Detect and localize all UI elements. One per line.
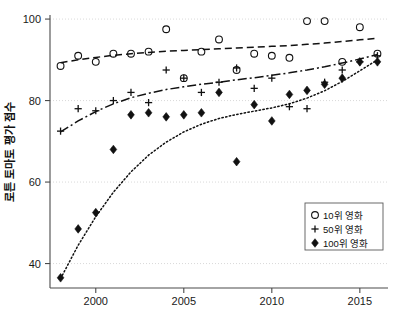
series-open-circle <box>57 18 381 82</box>
data-point-diamond <box>321 80 328 89</box>
data-point-circle <box>251 50 258 57</box>
x-tick-label: 2015 <box>348 295 372 307</box>
data-point-diamond <box>216 88 223 97</box>
data-point-diamond <box>286 90 293 99</box>
y-tick-label: 40 <box>29 258 41 270</box>
data-point-circle <box>163 26 170 33</box>
y-tick-label: 60 <box>29 176 41 188</box>
chart-container: 2000200520102015 406080100 로튼 토마토 평가 점수 … <box>0 0 397 316</box>
data-point-circle <box>198 48 205 55</box>
data-point-diamond <box>110 145 117 154</box>
data-point-diamond <box>251 100 258 109</box>
legend-item-label: 10위 영화 <box>323 210 363 221</box>
data-point-diamond <box>92 208 99 217</box>
data-point-circle <box>304 18 311 25</box>
y-tick-label: 80 <box>29 95 41 107</box>
legend[interactable]: 10위 영화50위 영화100위 영화 <box>305 203 383 250</box>
y-axis-tick-labels: 406080100 <box>23 13 41 269</box>
x-tick-label: 2010 <box>260 295 284 307</box>
data-point-circle <box>216 36 223 43</box>
scatter-plot: 2000200520102015 406080100 로튼 토마토 평가 점수 … <box>0 0 397 316</box>
x-tick-label: 2000 <box>84 295 108 307</box>
data-point-circle <box>321 18 328 25</box>
data-point-circle <box>268 52 275 59</box>
data-point-circle <box>110 50 117 57</box>
data-point-diamond <box>233 157 240 166</box>
data-point-diamond <box>163 113 170 122</box>
trend-curve <box>61 38 378 62</box>
data-point-circle <box>286 54 293 61</box>
data-point-diamond <box>268 117 275 126</box>
data-point-diamond <box>75 225 82 234</box>
x-axis-tick-labels: 2000200520102015 <box>84 295 373 307</box>
legend-item-label: 50위 영화 <box>323 224 363 235</box>
data-point-diamond <box>128 111 135 120</box>
x-tick-label: 2005 <box>172 295 196 307</box>
data-point-diamond <box>145 108 152 117</box>
data-point-diamond <box>374 58 381 67</box>
data-point-circle <box>57 63 64 70</box>
data-point-circle <box>92 58 99 65</box>
data-point-diamond <box>304 86 311 95</box>
data-point-diamond <box>180 111 187 120</box>
data-point-circle <box>75 52 82 59</box>
data-point-circle <box>356 24 363 31</box>
y-axis-title: 로튼 토마토 평가 점수 <box>3 102 16 201</box>
data-point-diamond <box>339 74 346 83</box>
y-tick-label: 100 <box>23 13 41 25</box>
legend-item-label: 100위 영화 <box>323 238 369 249</box>
data-point-diamond <box>198 108 205 117</box>
